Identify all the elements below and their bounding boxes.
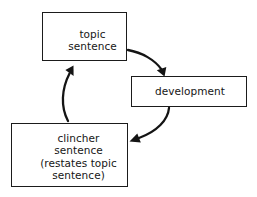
node-clincher-sentence-label: clincher sentence (restates topic senten…	[22, 129, 117, 182]
edge-development-to-clincher	[130, 108, 170, 143]
node-development-label: development	[153, 85, 225, 97]
edge-clincher-to-topic	[63, 66, 74, 122]
edge-topic-to-development-line	[128, 50, 162, 70]
node-clincher-sentence[interactable]: clincher sentence (restates topic senten…	[11, 123, 128, 187]
node-topic-sentence-label: topic sentence	[52, 21, 116, 53]
node-topic-sentence[interactable]: topic sentence	[42, 12, 127, 61]
edge-topic-to-development	[128, 50, 166, 77]
node-development[interactable]: development	[131, 76, 247, 107]
diagram-canvas: topic sentence development clincher sent…	[0, 0, 257, 197]
edge-clincher-to-topic-line	[63, 74, 70, 122]
edge-development-to-clincher-line	[139, 108, 169, 138]
